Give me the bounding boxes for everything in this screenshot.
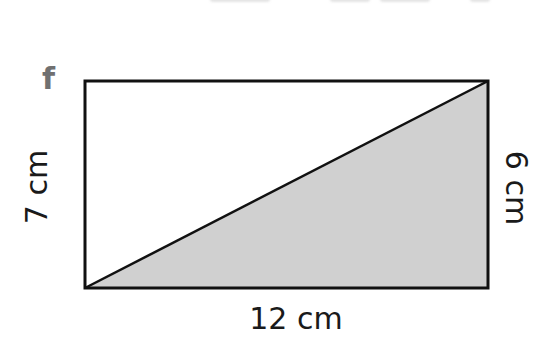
right-side-length: 6 cm bbox=[501, 151, 531, 225]
left-side-length: 7 cm bbox=[22, 150, 52, 224]
bottom-side-length: 12 cm bbox=[249, 304, 342, 334]
